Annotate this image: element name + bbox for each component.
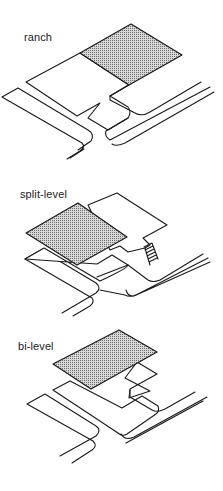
bi-level-diagram bbox=[27, 330, 207, 463]
ranch-diagram bbox=[2, 24, 214, 159]
split-stairs bbox=[144, 243, 158, 265]
house-types-diagram bbox=[0, 0, 223, 491]
split-level-diagram bbox=[25, 193, 210, 316]
